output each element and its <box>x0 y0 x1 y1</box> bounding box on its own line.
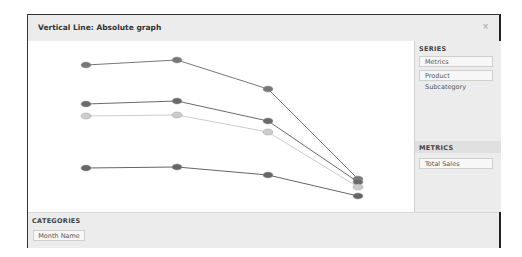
data-point[interactable] <box>263 129 273 135</box>
title-bar: Vertical Line: Absolute graph × <box>28 15 499 42</box>
series-header: SERIES <box>419 45 446 53</box>
data-point[interactable] <box>263 86 273 92</box>
series-chip-product-subcategory[interactable]: Product Subcategory <box>419 70 493 81</box>
window-title: Vertical Line: Absolute graph <box>38 23 161 32</box>
data-point[interactable] <box>172 57 182 63</box>
data-point[interactable] <box>263 118 273 124</box>
line-chart <box>28 41 414 212</box>
data-point[interactable] <box>81 101 91 107</box>
data-point[interactable] <box>81 165 91 171</box>
close-icon[interactable]: × <box>482 22 489 31</box>
data-point[interactable] <box>353 193 363 199</box>
series-line <box>86 167 358 196</box>
data-point[interactable] <box>81 113 91 119</box>
category-chip-month-name[interactable]: Month Name <box>33 230 85 241</box>
categories-header: CATEGORIES <box>32 217 81 225</box>
series-chip-metrics[interactable]: Metrics <box>419 56 493 67</box>
data-point[interactable] <box>172 98 182 104</box>
categories-panel: CATEGORIES Month Name <box>28 212 499 248</box>
side-panel: SERIES Metrics Product Subcategory METRI… <box>414 41 501 212</box>
plot-area <box>28 41 414 212</box>
metrics-chip-total-sales[interactable]: Total Sales <box>419 158 493 169</box>
chart-window: Vertical Line: Absolute graph × SERIES M… <box>27 14 501 248</box>
data-point[interactable] <box>172 164 182 170</box>
series-line <box>86 115 358 187</box>
metrics-header: METRICS <box>419 144 453 152</box>
series-line <box>86 101 358 182</box>
data-point[interactable] <box>263 172 273 178</box>
data-point[interactable] <box>172 112 182 118</box>
series-line <box>86 60 358 179</box>
data-point[interactable] <box>353 184 363 190</box>
data-point[interactable] <box>81 62 91 68</box>
